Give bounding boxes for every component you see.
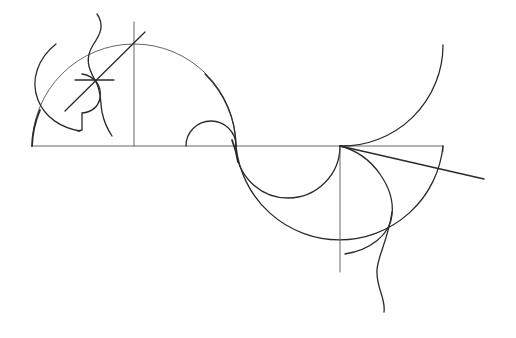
profile-head xyxy=(78,74,100,131)
left-outer-arc xyxy=(35,44,80,131)
diagonal-ray xyxy=(340,146,484,179)
wavy-line-top xyxy=(88,14,112,136)
inner-lower-arc xyxy=(340,146,392,254)
diagonal-line-upper-left xyxy=(65,32,145,111)
upper-small-semicircle xyxy=(186,121,236,146)
lower-large-arc xyxy=(236,146,443,240)
upper-right-arc xyxy=(340,45,443,146)
geometric-diagram xyxy=(0,0,516,338)
upper-large-arc-right-bold xyxy=(205,74,236,146)
